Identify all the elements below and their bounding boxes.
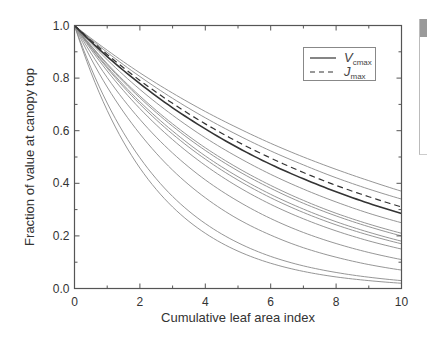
x-tick-label: 8 [333, 295, 340, 309]
line-chart: 0246810 0.00.20.40.60.81.0 Cumulative le… [0, 0, 427, 351]
y-axis-title: Fraction of value at canopy top [22, 68, 37, 246]
x-tick-label: 0 [71, 295, 78, 309]
y-tick-labels: 0.00.20.40.60.81.0 [53, 19, 70, 296]
x-tick-label: 2 [137, 295, 144, 309]
side-panel-scrollbar [419, 19, 427, 155]
x-tick-label: 4 [202, 295, 209, 309]
legend: Vcmax Jmax [304, 48, 376, 82]
x-axis-title: Cumulative leaf area index [161, 310, 315, 325]
side-panel-thumb [420, 19, 427, 37]
y-tick-label: 0.4 [53, 176, 70, 190]
x-tick-label: 6 [267, 295, 274, 309]
x-tick-labels: 0246810 [71, 295, 408, 309]
y-tick-label: 0.8 [53, 71, 70, 85]
x-tick-label: 10 [395, 295, 409, 309]
y-tick-label: 0.6 [53, 124, 70, 138]
y-tick-label: 0.0 [53, 282, 70, 296]
y-tick-label: 1.0 [53, 19, 70, 33]
y-tick-label: 0.2 [53, 229, 70, 243]
